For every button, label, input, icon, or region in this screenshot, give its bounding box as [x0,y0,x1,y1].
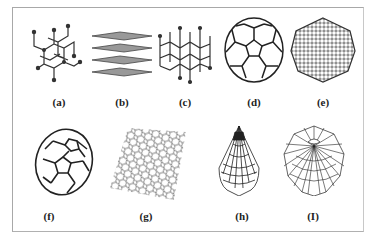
panel-e-label: (e) [308,96,338,108]
panel-a-diamond [26,18,86,86]
panel-g-label: (g) [131,210,161,222]
panel-c-label: (c) [170,96,200,108]
panel-b-label: (b) [107,96,137,108]
panel-i-nanocone-top [282,124,346,196]
panel-f-label: (f) [34,210,64,222]
c540-fullerene-icon [290,17,356,83]
panel-h-label: (h) [227,210,257,222]
panel-d-c60 [222,14,286,86]
c60-buckyball-icon [222,14,286,86]
graphene-sheet-icon [106,126,186,202]
panel-f-c70 [33,127,95,197]
panel-i-label: (I) [298,210,328,222]
graphite-layers-icon [90,30,154,80]
panel-a-label: (a) [44,96,74,108]
panel-b-graphite [90,30,154,80]
panel-e-c540 [290,17,356,83]
panel-c-lonsdaleite [156,22,218,86]
diamond-lattice-icon [26,18,86,86]
panel-g-graphene [106,126,186,202]
c70-fullerene-icon [33,127,95,197]
lonsdaleite-lattice-icon [156,22,218,86]
nanocone-side-icon [215,124,263,196]
panel-d-label: (d) [239,96,269,108]
panel-h-nanocone [215,124,263,196]
nanocone-top-icon [282,124,346,196]
